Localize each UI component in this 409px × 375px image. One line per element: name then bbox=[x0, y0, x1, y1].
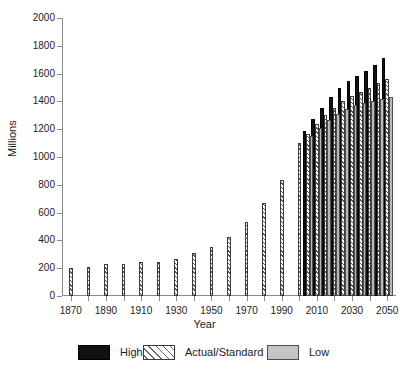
x-tick-label: 1990 bbox=[271, 306, 293, 316]
y-tick-label: 0 bbox=[49, 291, 55, 301]
bar-std-1980 bbox=[262, 203, 266, 296]
y-tick bbox=[57, 213, 62, 214]
y-tick-label: 800 bbox=[38, 180, 55, 190]
y-tick bbox=[57, 268, 62, 269]
x-tick bbox=[71, 296, 72, 301]
x-tick-label: 1910 bbox=[130, 306, 152, 316]
bar-low-2005 bbox=[310, 136, 314, 296]
x-tick bbox=[264, 296, 265, 301]
x-tick bbox=[194, 296, 195, 301]
legend-swatch-std-icon bbox=[143, 345, 175, 360]
population-projection-chart: 0200400600800100012001400160018002000 18… bbox=[0, 0, 409, 375]
x-tick bbox=[334, 296, 335, 301]
y-tick bbox=[57, 18, 62, 19]
bar-std-1900 bbox=[122, 264, 126, 296]
legend-label: High bbox=[120, 346, 143, 358]
bar-std-1990 bbox=[280, 180, 284, 296]
y-tick-label: 400 bbox=[38, 235, 55, 245]
y-tick-label: 2000 bbox=[33, 13, 55, 23]
bar-std-1890 bbox=[104, 264, 108, 296]
bar-std-1960 bbox=[227, 237, 231, 296]
y-tick bbox=[57, 240, 62, 241]
bar-low-2010 bbox=[319, 128, 323, 296]
x-tick-label: 2050 bbox=[376, 306, 398, 316]
x-tick-label: 1890 bbox=[95, 306, 117, 316]
y-tick bbox=[57, 157, 62, 158]
x-tick bbox=[141, 296, 142, 301]
bar-low-2040 bbox=[371, 101, 375, 296]
bar-std-1930 bbox=[174, 259, 178, 296]
legend-item-low[interactable]: Low bbox=[267, 341, 329, 363]
bar-std-1940 bbox=[192, 253, 196, 296]
x-tick bbox=[247, 296, 248, 301]
y-axis-title: Millions bbox=[6, 120, 18, 157]
bar-std-2000 bbox=[298, 143, 302, 296]
x-tick bbox=[159, 296, 160, 301]
bar-std-1870 bbox=[69, 268, 73, 296]
x-tick-label: 1970 bbox=[235, 306, 257, 316]
x-tick-label: 1950 bbox=[200, 306, 222, 316]
x-tick bbox=[176, 296, 177, 301]
y-tick-label: 1800 bbox=[33, 41, 55, 51]
bar-low-2030 bbox=[354, 105, 358, 296]
y-tick-label: 1400 bbox=[33, 96, 55, 106]
bar-low-2020 bbox=[336, 114, 340, 296]
y-tick-label: 600 bbox=[38, 208, 55, 218]
x-axis-title: Year bbox=[0, 318, 409, 330]
chart-legend: HighActual/StandardLow bbox=[0, 341, 409, 365]
y-tick-label: 200 bbox=[38, 263, 55, 273]
y-axis-line bbox=[62, 18, 63, 296]
legend-label: Actual/Standard bbox=[185, 346, 263, 358]
x-tick bbox=[282, 296, 283, 301]
x-tick bbox=[106, 296, 107, 301]
x-tick bbox=[211, 296, 212, 301]
legend-label: Low bbox=[309, 346, 329, 358]
y-tick bbox=[57, 101, 62, 102]
bar-low-2035 bbox=[363, 103, 367, 296]
plot-area: 0200400600800100012001400160018002000 18… bbox=[62, 18, 396, 296]
y-tick-label: 1200 bbox=[33, 124, 55, 134]
y-tick bbox=[57, 46, 62, 47]
bar-low-2025 bbox=[345, 109, 349, 296]
legend-swatch-high-icon bbox=[78, 345, 110, 360]
y-tick-label: 1600 bbox=[33, 69, 55, 79]
bar-low-2015 bbox=[327, 120, 331, 296]
bar-std-1920 bbox=[157, 262, 161, 296]
x-tick bbox=[317, 296, 318, 301]
x-tick-label: 2030 bbox=[341, 306, 363, 316]
legend-item-std[interactable]: Actual/Standard bbox=[143, 341, 263, 363]
x-tick bbox=[387, 296, 388, 301]
legend-item-high[interactable]: High bbox=[78, 341, 143, 363]
bar-std-1910 bbox=[139, 262, 143, 296]
bar-low-2050 bbox=[389, 97, 393, 296]
y-tick bbox=[57, 74, 62, 75]
y-tick-label: 1000 bbox=[33, 152, 55, 162]
x-tick bbox=[88, 296, 89, 301]
bar-std-1950 bbox=[210, 247, 214, 296]
x-tick bbox=[124, 296, 125, 301]
bar-low-2045 bbox=[380, 99, 384, 296]
x-tick-label: 1930 bbox=[165, 306, 187, 316]
bar-std-1970 bbox=[245, 222, 249, 296]
bar-std-1880 bbox=[87, 267, 91, 296]
x-tick-label: 1870 bbox=[60, 306, 82, 316]
x-tick bbox=[229, 296, 230, 301]
x-tick bbox=[299, 296, 300, 301]
x-tick bbox=[352, 296, 353, 301]
y-tick bbox=[57, 129, 62, 130]
y-tick bbox=[57, 185, 62, 186]
legend-swatch-low-icon bbox=[267, 345, 299, 360]
x-tick-label: 2010 bbox=[306, 306, 328, 316]
x-tick bbox=[370, 296, 371, 301]
y-tick bbox=[57, 296, 62, 297]
